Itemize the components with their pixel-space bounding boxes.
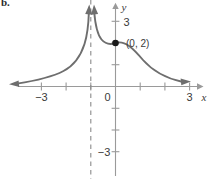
point-marker-y-intercept xyxy=(112,40,119,47)
x-axis-arrowhead xyxy=(197,83,204,90)
y-axis-arrowhead xyxy=(112,3,118,9)
x-tick-label-zero: 0 xyxy=(104,91,110,103)
x-tick-label-minus3: −3 xyxy=(35,91,48,103)
point-label-y-intercept: (0, 2) xyxy=(126,38,149,49)
axes-group xyxy=(18,3,204,176)
x-axis-label: x xyxy=(201,91,207,103)
left-branch-curve xyxy=(9,5,92,87)
left-branch-left-arrowhead xyxy=(9,80,19,87)
right-branch-top-arrowhead xyxy=(91,5,98,15)
graph-figure: b. xyxy=(0,0,211,179)
y-tick-label-3: 3 xyxy=(123,16,129,28)
left-branch-path xyxy=(17,12,89,84)
coordinate-plane: #figure g[data-name="left-branch-curve"]… xyxy=(0,0,211,179)
y-tick-label-minus3: −3 xyxy=(98,146,111,158)
x-tick-label-3: 3 xyxy=(187,91,193,103)
y-axis-label: y xyxy=(121,1,127,13)
